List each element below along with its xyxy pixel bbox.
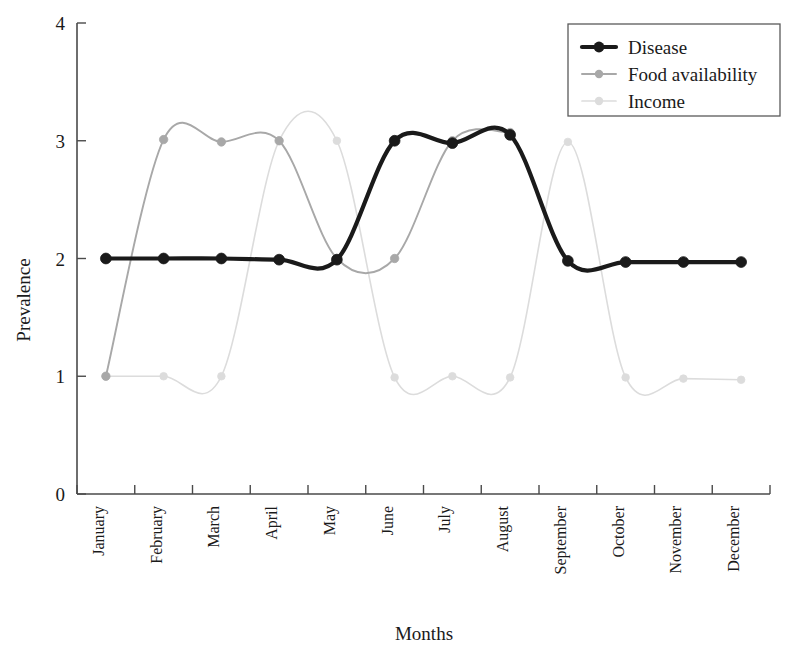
x-category-label: September [552,505,570,574]
x-axis-title: Months [395,623,453,644]
chart-container: 01234 JanuaryFebruaryMarchAprilMayJuneJu… [0,0,792,653]
series-line [106,111,741,395]
data-point-marker [217,138,225,146]
y-axis-ticks [77,23,86,494]
data-point-marker [160,372,168,380]
data-point-marker [736,257,747,268]
data-point-marker [159,135,167,143]
chart-legend: DiseaseFood availabilityIncome [568,24,780,116]
x-axis-category-labels: JanuaryFebruaryMarchAprilMayJuneJulyAugu… [90,505,742,574]
legend-marker-swatch [595,70,603,78]
data-point-marker [447,138,458,149]
y-axis-tick-labels: 01234 [56,13,66,505]
data-point-marker [158,253,169,264]
y-tick-label: 1 [56,366,66,387]
legend-marker-swatch [594,42,605,53]
series-line [106,123,510,376]
data-point-marker [216,253,227,264]
x-category-label: January [90,506,108,556]
y-axis-title: Prevalence [13,258,34,341]
x-category-label: November [667,505,684,573]
x-category-label: March [205,506,222,548]
y-tick-label: 2 [56,249,66,270]
legend-label: Disease [628,37,687,58]
x-category-label: May [321,506,339,535]
data-point-marker [506,374,514,382]
x-category-label: December [725,505,742,571]
data-point-marker [620,257,631,268]
data-point-marker [389,135,400,146]
y-tick-label: 3 [56,131,66,152]
series-income [102,111,745,395]
data-point-marker [564,138,572,146]
y-tick-label: 4 [56,13,66,34]
data-point-marker [390,254,398,262]
data-point-marker [274,254,285,265]
data-point-marker [449,372,457,380]
legend-label: Income [628,91,685,112]
legend-label: Food availability [628,64,758,85]
data-point-marker [275,137,283,145]
data-point-marker [333,137,341,145]
data-point-marker [678,257,689,268]
x-category-label: April [263,505,281,539]
data-point-marker [737,376,745,384]
x-category-label: August [494,505,512,552]
data-point-marker [505,129,516,140]
x-category-label: February [148,506,166,564]
data-point-marker [562,255,573,266]
data-point-marker [102,372,110,380]
x-axis-ticks [77,485,770,494]
data-point-marker [622,374,630,382]
y-tick-label: 0 [56,484,66,505]
data-point-marker [218,372,226,380]
data-point-marker [100,253,111,264]
series-food-availability [102,123,515,381]
data-point-marker [391,374,399,382]
series-group [100,111,746,395]
x-category-label: June [379,506,396,535]
data-point-marker [680,375,688,383]
data-point-marker [331,254,342,265]
x-category-label: July [436,506,454,533]
x-category-label: October [610,505,627,557]
legend-marker-swatch [595,97,603,105]
line-chart: 01234 JanuaryFebruaryMarchAprilMayJuneJu… [0,0,792,653]
